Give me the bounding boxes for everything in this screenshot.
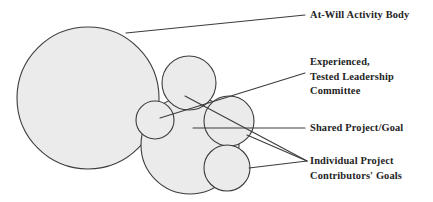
leader-line-individual-middle bbox=[247, 135, 307, 161]
diagram-canvas bbox=[0, 0, 433, 202]
circle-leadership-committee bbox=[162, 56, 216, 110]
leader-line-individual-lower bbox=[249, 161, 307, 168]
circle-bottom-contributor bbox=[204, 145, 250, 191]
circle-shared-project-goal bbox=[204, 96, 254, 146]
circle-at-will-activity-body bbox=[17, 27, 159, 169]
circle-small-contributor bbox=[136, 101, 174, 139]
circle-diagram: At-Will Activity Body Experienced, Teste… bbox=[0, 0, 433, 202]
leader-line-at-will bbox=[126, 15, 305, 33]
